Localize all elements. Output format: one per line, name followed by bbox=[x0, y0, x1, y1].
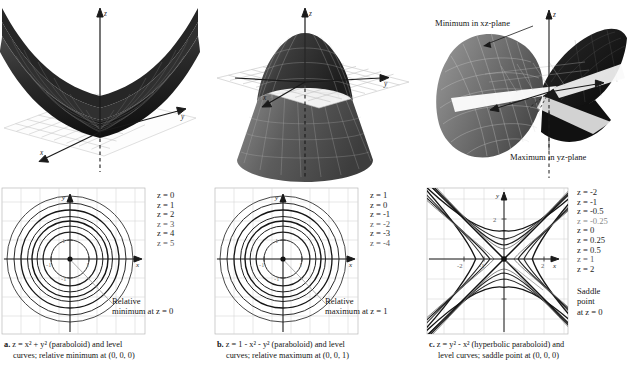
caption-a: a. z = x² + y² (paraboloid) and level cu… bbox=[4, 340, 209, 361]
callout-b-line1: Relative bbox=[325, 296, 388, 306]
callout-relative-maximum-b: Relative maximum at z = 1 bbox=[325, 296, 388, 316]
saddle-point-marker-c bbox=[501, 256, 507, 262]
caption-b: b. z = 1 - x² - y² (paraboloid) and leve… bbox=[217, 340, 422, 361]
surface-plot-b: z y x bbox=[213, 0, 425, 186]
tick-label-x-neg1-b: -1 bbox=[259, 261, 264, 268]
level-label-a-5: z = 5 bbox=[157, 239, 174, 249]
level-label-b-5: z = -4 bbox=[370, 239, 390, 249]
annotation-minimum-xz-plane-c: Minimum in xz-plane bbox=[435, 18, 510, 28]
tick-label-x-2-c: 2 bbox=[541, 262, 544, 269]
level-label-list-c: z = -2 z = -1 z = -0.5 z = -0.25 z = 0 z… bbox=[577, 188, 608, 274]
caption-c: c. z = y² - x² (hyperbolic paraboloid) a… bbox=[429, 340, 634, 361]
level-label-c-8: z = 2 bbox=[577, 265, 608, 275]
caption-a-label: a. bbox=[4, 340, 10, 349]
tick-label-x-neg1-a: -1 bbox=[46, 261, 51, 268]
callout-a-line1: Relative bbox=[112, 296, 173, 306]
axis-label-x-a: x bbox=[39, 149, 44, 157]
level-label-list-a: z = 0 z = 1 z = 2 z = 3 z = 4 z = 5 bbox=[157, 191, 174, 249]
tick-label-x-1-a: 1 bbox=[86, 261, 89, 268]
callout-c-line3: at z = 0 bbox=[577, 307, 603, 317]
axis-label-z-c: z bbox=[552, 11, 556, 19]
callout-c-line1: Saddle bbox=[577, 286, 603, 296]
caption-b-line1: z = 1 - x² - y² (paraboloid) and level bbox=[226, 340, 345, 349]
panel-b: z y x bbox=[213, 0, 425, 370]
level-label-list-b: z = 1 z = 0 z = -1 z = -2 z = -3 z = -4 bbox=[370, 191, 390, 249]
origin-point-a bbox=[67, 256, 72, 261]
contour-plot-b: -1 1 -1 1 x y z = 1 z = 0 z = -1 z = -2 … bbox=[213, 186, 425, 336]
tick-label-y-1-a: 1 bbox=[62, 237, 65, 244]
tick-label-y-2-c: 2 bbox=[493, 216, 496, 223]
axis-label-z-a: z bbox=[103, 10, 107, 18]
axis-label-z-b: z bbox=[308, 10, 312, 18]
contour-plot-a: -1 1 -1 1 x y z = 0 z = 1 z = 2 bbox=[0, 186, 212, 336]
callout-a-line2: minimum at z = 0 bbox=[112, 306, 173, 316]
caption-a-line1: z = x² + y² (paraboloid) and level bbox=[12, 340, 122, 349]
panel-a: z y x bbox=[0, 0, 212, 370]
caption-c-line1: z = y² - x² (hyperbolic paraboloid) and bbox=[437, 340, 564, 349]
callout-saddle-point-c: Saddle point at z = 0 bbox=[577, 286, 603, 317]
caption-c-label: c. bbox=[429, 340, 435, 349]
annotation-min-text-c: Minimum in xz-plane bbox=[435, 18, 510, 28]
tick-label-y-neg1-b: -1 bbox=[274, 275, 279, 282]
origin-point-b bbox=[280, 256, 285, 261]
contour-plot-c: -2 -1 2 2 x y z = -2 z = -1 z = -0.5 z =… bbox=[425, 186, 637, 336]
caption-b-line2: curves; relative maximum at (0, 0, 1) bbox=[217, 351, 422, 362]
annotation-maximum-yz-plane-c: Maximum in yz-plane bbox=[510, 152, 586, 162]
panel-c: z Minimum in xz-plane Maximum in yz-plan… bbox=[425, 0, 637, 370]
tick-label-y-1-b: 1 bbox=[275, 237, 278, 244]
caption-b-label: b. bbox=[217, 340, 224, 349]
callout-b-line2: maximum at z = 1 bbox=[325, 306, 388, 316]
annotation-max-text-c: Maximum in yz-plane bbox=[510, 152, 586, 162]
tick-label-x-neg2-c: -2 bbox=[457, 262, 463, 269]
tick-label-x-1-b: 1 bbox=[299, 261, 302, 268]
surface-plot-c: z Minimum in xz-plane Maximum in yz-plan… bbox=[425, 0, 637, 186]
callout-c-line2: point bbox=[577, 296, 603, 306]
tick-label-x-neg1-c: -1 bbox=[479, 262, 485, 269]
caption-a-line2: curves; relative minimum at (0, 0, 0) bbox=[4, 351, 209, 362]
callout-relative-minimum-a: Relative minimum at z = 0 bbox=[112, 296, 173, 316]
surface-plot-a: z y x bbox=[0, 0, 212, 186]
caption-c-line2: level curves; saddle point at (0, 0, 0) bbox=[429, 351, 634, 362]
tick-label-y-neg1-a: -1 bbox=[61, 275, 66, 282]
textbook-figure: z y x bbox=[0, 0, 637, 370]
